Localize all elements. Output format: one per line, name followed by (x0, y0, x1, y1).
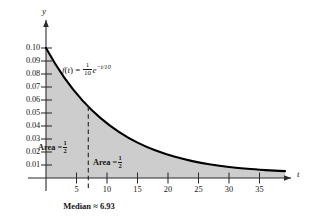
x-axis-label: t (297, 170, 300, 179)
area-label-right: Area =12 (93, 155, 123, 169)
y-axis-arrowhead (43, 20, 49, 27)
y-tick-label-0.06: 0.06 (14, 96, 40, 104)
area-label-right-text: Area = (93, 158, 117, 167)
formula-coefficient-denominator: 10 (83, 70, 92, 77)
formula-equals: ) = (70, 65, 83, 75)
median-annotation: Median ≈ 6.93 (43, 202, 135, 211)
formula-coefficient-fraction: 110 (83, 62, 92, 77)
y-tick-label-0.10: 0.10 (14, 44, 40, 52)
formula-exponent: −t/10 (96, 63, 110, 70)
y-tick-label-0.01: 0.01 (14, 161, 40, 169)
area-left-denominator: 2 (63, 148, 68, 155)
area-right-denominator: 2 (118, 163, 123, 170)
y-tick-label-0.09: 0.09 (14, 57, 40, 65)
y-tick-label-0.05: 0.05 (14, 109, 40, 117)
x-tick-label-25: 25 (189, 186, 209, 194)
x-tick-label-20: 20 (158, 186, 178, 194)
x-tick-label-35: 35 (250, 186, 270, 194)
function-formula: f(t) = 110e−t/10 (62, 62, 111, 77)
x-tick-label-10: 10 (97, 186, 117, 194)
y-tick-label-0.04: 0.04 (14, 122, 40, 130)
x-tick-label-30: 30 (219, 186, 239, 194)
y-tick-label-0.08: 0.08 (14, 70, 40, 78)
y-tick-label-0.07: 0.07 (14, 83, 40, 91)
exponential-distribution-figure: 0.10 0.09 0.08 0.07 0.06 0.05 0.04 0.03 … (0, 0, 311, 220)
area-label-left-fraction: 12 (63, 140, 68, 154)
x-axis-arrowhead (284, 175, 291, 181)
area-label-left: Area =12 (38, 140, 68, 154)
y-tick-label-0.03: 0.03 (14, 135, 40, 143)
x-tick-label-5: 5 (67, 186, 87, 194)
area-label-left-text: Area = (38, 143, 62, 152)
y-axis-label: y (42, 7, 46, 16)
area-label-right-fraction: 12 (118, 155, 123, 169)
x-tick-label-15: 15 (128, 186, 148, 194)
y-tick-label-0.02: 0.02 (14, 148, 40, 156)
